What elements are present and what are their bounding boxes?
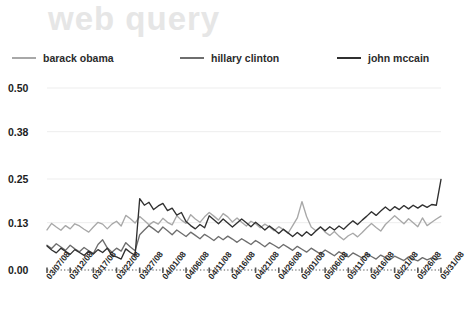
y-tick-label: 0.50 [8, 82, 28, 94]
y-tick-label: 0.00 [8, 264, 28, 276]
y-tick-label: 0.13 [8, 217, 28, 229]
y-tick-label: 0.25 [8, 173, 28, 185]
series-lines [47, 179, 441, 261]
gridlines [47, 88, 441, 223]
y-tick-label: 0.38 [8, 126, 28, 138]
